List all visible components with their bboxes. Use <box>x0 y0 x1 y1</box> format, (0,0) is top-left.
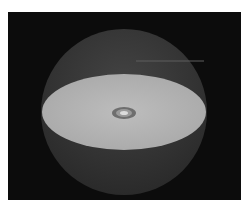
sphere-render <box>0 0 249 220</box>
center-ring-inner <box>120 111 128 115</box>
